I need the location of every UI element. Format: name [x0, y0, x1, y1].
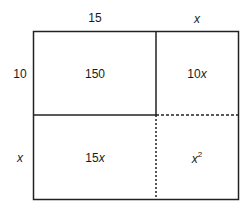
side-label-10: 10: [13, 68, 26, 80]
cell-bottom-right-x-squared: x2: [192, 153, 202, 165]
cell-bottom-left-coef: 15: [85, 151, 98, 165]
cell-bottom-right-exponent: 2: [198, 150, 202, 159]
cell-bottom-left-15x: 15x: [85, 152, 104, 164]
top-label-x: x: [194, 13, 200, 25]
cell-top-right-coef: 10: [187, 67, 200, 81]
cell-top-right-var: x: [201, 67, 207, 81]
cell-bottom-left-var: x: [99, 151, 105, 165]
cell-top-left-150: 150: [85, 68, 105, 80]
area-model-figure: [0, 0, 251, 209]
top-label-15: 15: [88, 12, 101, 24]
cell-top-right-10x: 10x: [187, 68, 206, 80]
side-label-x: x: [17, 152, 23, 164]
